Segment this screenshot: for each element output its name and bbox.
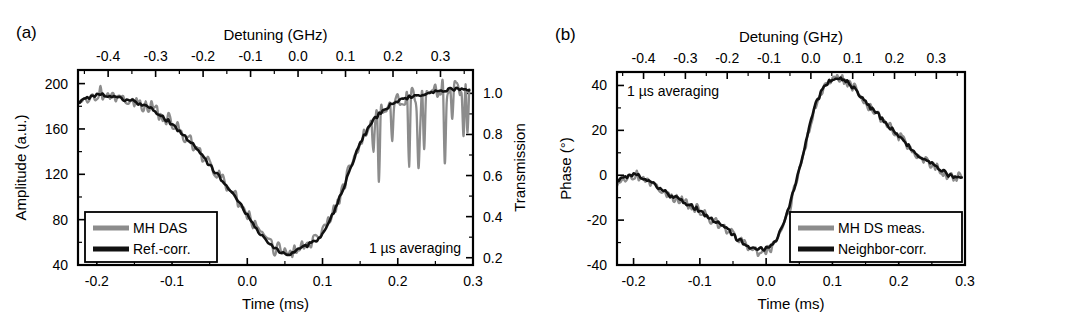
y-tick-label: -20: [587, 212, 607, 228]
x-tick-label: -0.2: [85, 273, 109, 289]
y2-axis-title: Transmission: [511, 123, 528, 212]
panel-b-content: (b)-0.2-0.10.00.10.20.3Time (ms)-0.4-0.3…: [555, 25, 975, 312]
panel-letter: (a): [16, 23, 37, 42]
legend-label: Ref.-corr.: [133, 241, 191, 257]
panel-a-content: (a)-0.2-0.10.00.10.20.3Time (ms)-0.4-0.3…: [12, 23, 528, 312]
panel-letter: (b): [555, 25, 576, 44]
x2-tick-label: 0.1: [843, 50, 863, 66]
x-tick-label: 0.3: [463, 273, 483, 289]
x2-tick-label: 0.3: [927, 50, 947, 66]
x-tick-label: 0.0: [756, 273, 776, 289]
y2-tick-label: 0.8: [483, 126, 503, 142]
panel-a-amplitude: (a)-0.2-0.10.00.10.20.3Time (ms)-0.4-0.3…: [0, 0, 533, 332]
y-axis-left: 4080120160200Amplitude (a.u.): [12, 76, 85, 273]
x2-tick-label: -0.4: [631, 50, 655, 66]
legend: MH DASRef.-corr.: [85, 212, 217, 262]
x2-tick-label: -0.2: [715, 50, 739, 66]
x2-tick-label: 0.1: [336, 48, 356, 64]
x2-tick-label: 0.0: [288, 48, 308, 64]
x2-tick-label: 0.2: [383, 48, 403, 64]
x-tick-label: 0.1: [313, 273, 333, 289]
x-tick-label: 0.2: [388, 273, 408, 289]
legend: MH DS meas.Neighbor-corr.: [790, 212, 962, 262]
y-tick-label: 80: [52, 212, 68, 228]
x-axis-bottom: -0.2-0.10.00.10.20.3Time (ms): [85, 258, 483, 312]
y-tick-label: 0: [599, 167, 607, 183]
legend-label: MH DS meas.: [838, 220, 925, 236]
y-tick-label: -40: [587, 257, 607, 273]
y2-tick-label: 0.2: [483, 250, 503, 266]
x-tick-label: 0.0: [238, 273, 258, 289]
x-tick-label: 0.2: [889, 273, 909, 289]
x2-tick-label: -0.3: [144, 48, 168, 64]
x-axis-title: Time (ms): [758, 295, 825, 312]
x2-axis-title: Detuning (GHz): [739, 28, 843, 45]
x-tick-label: 0.3: [955, 273, 975, 289]
y2-tick-label: 1.0: [483, 85, 503, 101]
y-tick-label: 200: [45, 76, 69, 92]
legend-label: MH DAS: [133, 220, 187, 236]
x-tick-label: -0.1: [160, 273, 184, 289]
y-tick-label: 40: [52, 257, 68, 273]
x2-tick-label: -0.1: [757, 50, 781, 66]
x2-tick-label: 0.2: [885, 50, 905, 66]
legend-label: Neighbor-corr.: [838, 241, 927, 257]
x2-tick-label: -0.3: [673, 50, 697, 66]
y-tick-label: 120: [45, 166, 69, 182]
y-axis-title: Phase (°): [557, 137, 574, 200]
x-axis-bottom: -0.2-0.10.00.10.20.3Time (ms): [622, 258, 975, 312]
figure-container: (a)-0.2-0.10.00.10.20.3Time (ms)-0.4-0.3…: [0, 0, 1065, 332]
y-tick-label: 40: [591, 77, 607, 93]
x-tick-label: 0.1: [823, 273, 843, 289]
y2-tick-label: 0.6: [483, 168, 503, 184]
y-tick-label: 160: [45, 121, 69, 137]
averaging-annotation: 1 µs averaging: [369, 240, 461, 256]
panel-b-phase: (b)-0.2-0.10.00.10.20.3Time (ms)-0.4-0.3…: [533, 0, 1065, 332]
panel-a-svg: (a)-0.2-0.10.00.10.20.3Time (ms)-0.4-0.3…: [0, 0, 533, 332]
y-axis-left: -40-2002040Phase (°): [557, 77, 624, 273]
x2-tick-label: 0.3: [431, 48, 451, 64]
x2-tick-label: -0.4: [96, 48, 120, 64]
x2-tick-label: -0.2: [191, 48, 215, 64]
x-tick-label: -0.2: [622, 273, 646, 289]
panel-b-svg: (b)-0.2-0.10.00.10.20.3Time (ms)-0.4-0.3…: [533, 0, 1065, 332]
x2-tick-label: 0.0: [801, 50, 821, 66]
y-axis-right-transmission: 0.20.40.60.81.0Transmission: [466, 85, 528, 265]
averaging-annotation: 1 µs averaging: [627, 83, 719, 99]
y-axis-title: Amplitude (a.u.): [12, 115, 29, 221]
x-tick-label: -0.1: [688, 273, 712, 289]
y2-tick-label: 0.4: [483, 209, 503, 225]
x-axis-title: Time (ms): [242, 295, 309, 312]
x2-axis-title: Detuning (GHz): [223, 26, 327, 43]
y-tick-label: 20: [591, 122, 607, 138]
x2-tick-label: -0.1: [239, 48, 263, 64]
